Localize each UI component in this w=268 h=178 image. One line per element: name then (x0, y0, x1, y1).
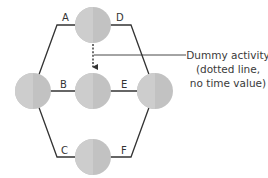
node-center (75, 73, 111, 109)
annotation-line-1: Dummy activity (186, 49, 268, 61)
node-left (15, 73, 51, 109)
label-d: D (116, 12, 124, 23)
activity-network-diagram: A D B E C F Dummy activity (dotted line,… (0, 0, 268, 178)
node-bottom (75, 139, 111, 175)
label-b: B (60, 79, 67, 90)
label-c: C (61, 145, 68, 156)
label-e: E (121, 79, 127, 90)
dummy-activity-annotation: Dummy activity (dotted line, no time val… (186, 49, 268, 89)
node-top (75, 7, 111, 43)
label-a: A (62, 12, 69, 23)
annotation-line-3: no time value) (190, 77, 266, 89)
label-f: F (121, 145, 127, 156)
node-right (137, 73, 173, 109)
annotation-line-2: (dotted line, (196, 63, 260, 75)
